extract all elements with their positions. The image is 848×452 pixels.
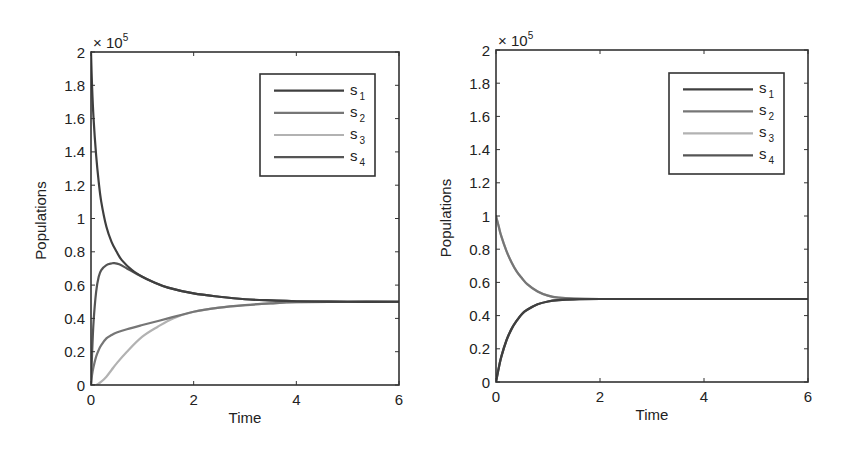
y-tick-label: 0.2: [64, 343, 85, 360]
y-tick-label: 0.2: [469, 340, 490, 357]
y-tick-label: 1.6: [469, 108, 490, 125]
chart-left: 00.20.40.60.811.21.41.61.820246× 105Time…: [32, 32, 403, 426]
y-tick-label: 2: [482, 42, 490, 59]
x-tick-label: 0: [492, 388, 500, 405]
legend: s1s2s3s4: [669, 73, 784, 174]
y-tick-label: 1.2: [64, 177, 85, 194]
x-tick-label: 2: [189, 391, 197, 408]
y-tick-label: 1: [77, 210, 85, 227]
x-tick-label: 4: [292, 391, 300, 408]
y-tick-label: 0.4: [64, 310, 85, 327]
y-axis-label: Populations: [32, 181, 49, 259]
y-tick-label: 1.2: [469, 174, 490, 191]
y-tick-label: 2: [77, 44, 85, 61]
y-multiplier-label: × 105: [93, 32, 129, 51]
y-tick-label: 0.6: [64, 277, 85, 294]
y-tick-label: 1.8: [469, 75, 490, 92]
y-multiplier-label: × 105: [498, 30, 534, 49]
x-tick-label: 6: [804, 388, 812, 405]
y-tick-label: 0.6: [469, 274, 490, 291]
x-tick-label: 2: [596, 388, 604, 405]
y-axis-label: Populations: [437, 179, 454, 257]
legend: s1s2s3s4: [260, 74, 375, 176]
legend-box: [260, 74, 375, 176]
x-tick-label: 0: [87, 391, 95, 408]
y-tick-label: 0: [77, 377, 85, 394]
chart-right: 00.20.40.60.811.21.41.61.820246× 105Time…: [437, 30, 812, 423]
y-tick-label: 0.8: [64, 243, 85, 260]
y-tick-label: 0.8: [469, 241, 490, 258]
y-tick-label: 1.4: [64, 143, 85, 160]
figure: 00.20.40.60.811.21.41.61.820246× 105Time…: [0, 0, 848, 452]
x-axis-label: Time: [636, 406, 669, 423]
x-tick-label: 4: [700, 388, 708, 405]
y-tick-label: 1.4: [469, 141, 490, 158]
y-tick-label: 1.8: [64, 77, 85, 94]
legend-box: [669, 73, 784, 174]
x-axis-label: Time: [229, 409, 262, 426]
y-tick-label: 0: [482, 374, 490, 391]
y-tick-label: 1.6: [64, 110, 85, 127]
figure-canvas: 00.20.40.60.811.21.41.61.820246× 105Time…: [0, 0, 848, 452]
x-tick-label: 6: [395, 391, 403, 408]
y-tick-label: 0.4: [469, 307, 490, 324]
y-tick-label: 1: [482, 208, 490, 225]
